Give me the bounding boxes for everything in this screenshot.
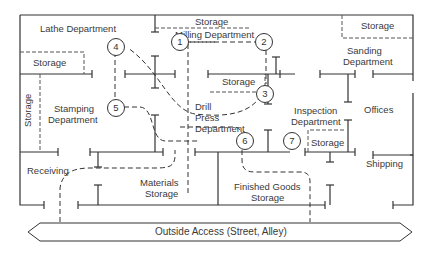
flow-node-5: 5	[107, 99, 125, 117]
flow-node-7: 7	[283, 132, 301, 150]
label-receiving: Receiving	[27, 166, 69, 177]
flow-node-1: 1	[171, 33, 189, 51]
label-lathe: Lathe Department	[40, 24, 116, 35]
label-materials-1: Materials	[140, 178, 179, 189]
label-outside-access: Outside Access (Street, Alley)	[155, 227, 287, 238]
flow-node-3: 3	[256, 85, 274, 103]
outer-wall-right-lower	[410, 93, 413, 155]
label-finished-2: Storage	[251, 193, 284, 204]
label-storage-left: Storage	[33, 58, 66, 69]
label-storage-top-mid: Storage	[195, 17, 228, 28]
label-inspection-2: Department	[291, 117, 341, 128]
label-materials-2: Storage	[145, 189, 178, 200]
label-sanding-1: Sanding	[347, 46, 382, 57]
label-storage-inspection: Storage	[311, 138, 344, 149]
flow-node-6: 6	[236, 132, 254, 150]
label-shipping: Shipping	[366, 159, 403, 170]
label-sanding-2: Department	[343, 57, 393, 68]
label-drill-1: Drill	[195, 102, 211, 113]
label-finished-1: Finished Goods	[234, 182, 301, 193]
label-storage-top-right: Storage	[361, 21, 394, 32]
label-storage-center: Storage	[222, 77, 255, 88]
label-storage-vertical: Storage	[23, 94, 34, 127]
label-offices: Offices	[364, 105, 393, 116]
flow-node-4: 4	[107, 38, 125, 56]
label-stamping-1: Stamping	[54, 104, 94, 115]
flow-node-2: 2	[255, 33, 273, 51]
label-drill-3: Department	[195, 124, 245, 135]
label-inspection-1: Inspection	[294, 106, 337, 117]
label-stamping-2: Department	[48, 115, 98, 126]
label-drill-2: Press	[195, 113, 219, 124]
